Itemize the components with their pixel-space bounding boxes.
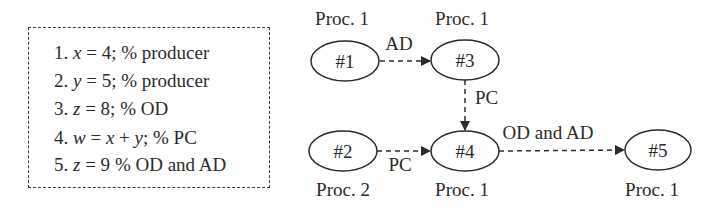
edge-3-to-4: PC: [465, 80, 498, 130]
node-3-label: #3: [456, 50, 475, 71]
edge-4-to-5: OD and AD: [499, 122, 624, 151]
node-4-label: #4: [456, 141, 476, 162]
proc-label-node-2: Proc. 2: [316, 179, 370, 200]
node-1: #1: [311, 41, 379, 81]
edge-label-ad: AD: [385, 33, 412, 54]
edge-2-to-4: PC: [377, 151, 430, 175]
proc-label-node-3: Proc. 1: [435, 8, 489, 29]
edge-label-pc-horizontal: PC: [388, 154, 411, 175]
edge-label-od-and-ad: OD and AD: [503, 122, 594, 143]
node-4: #4: [431, 131, 499, 171]
edge-1-to-3: AD: [380, 33, 430, 61]
proc-label-node-5: Proc. 1: [625, 179, 679, 200]
proc-label-node-1: Proc. 1: [315, 8, 369, 29]
node-1-label: #1: [336, 51, 355, 72]
node-3: #3: [431, 40, 499, 80]
dependency-diagram: Proc. 1 Proc. 1 #1 #3 #2 #4 #5 AD PC PC: [0, 0, 717, 216]
node-5-label: #5: [649, 140, 668, 161]
node-2-label: #2: [334, 141, 353, 162]
node-2: #2: [309, 131, 377, 171]
edge-label-pc-vertical: PC: [475, 87, 498, 108]
dashed-arrow: [499, 150, 624, 151]
node-5: #5: [625, 130, 691, 170]
proc-label-node-4: Proc. 1: [435, 179, 489, 200]
